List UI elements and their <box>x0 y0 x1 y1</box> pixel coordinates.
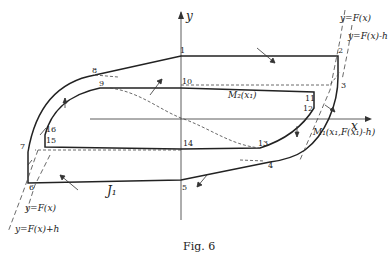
y-axis-label: y <box>185 9 193 23</box>
point-1: 1 <box>180 46 185 55</box>
curve-4-dashed <box>240 160 265 161</box>
point-8: 8 <box>92 66 97 75</box>
point-9: 9 <box>99 79 104 88</box>
label-F-right: y=F(x) <box>339 13 371 23</box>
point-12: 12 <box>303 104 313 113</box>
point-5: 5 <box>182 183 187 192</box>
point-16: 16 <box>46 125 56 134</box>
point-10: 10 <box>182 77 192 86</box>
y-axis-arrow-icon <box>178 11 184 19</box>
dashed-horizontal-upper <box>181 72 340 85</box>
phase-diagram: y x y=F(x) y=F(x)-h y=F(x) y=F(x)+h 1 2 … <box>0 0 390 256</box>
point-11: 11 <box>305 94 315 103</box>
figure-caption: Fig. 6 <box>183 240 215 253</box>
point-13: 13 <box>258 139 268 148</box>
point-14: 14 <box>183 139 193 148</box>
point-4: 4 <box>268 161 273 170</box>
point-7: 7 <box>20 142 25 151</box>
point-2: 2 <box>338 46 343 55</box>
label-F-plus-h: y=F(x)+h <box>14 224 59 234</box>
x-axis-arrow-icon <box>365 116 372 122</box>
outer-trajectory-J1 <box>28 56 338 183</box>
curve-8-dashed <box>95 75 118 77</box>
annotation-J1: J₁ <box>104 184 117 198</box>
point-15: 15 <box>46 136 56 145</box>
label-F-minus-h: y=F(x)-h <box>347 31 388 41</box>
point-3: 3 <box>341 81 346 90</box>
label-F-left: y=F(x) <box>24 203 56 213</box>
annotation-M1: M₁(x₁,F(x₁)-h) <box>312 127 376 137</box>
inner-trajectory <box>45 88 314 149</box>
annotation-M2: M₂(x₁) <box>227 90 257 100</box>
point-6: 6 <box>29 183 34 192</box>
